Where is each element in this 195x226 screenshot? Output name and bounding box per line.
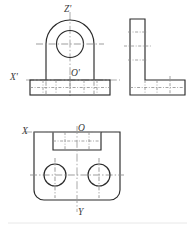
label-z-prime: Z'	[64, 4, 72, 14]
label-o-prime: O'	[71, 68, 81, 78]
front-view-group: Z' X' O'	[9, 4, 120, 96]
side-view-group	[124, 19, 185, 95]
engineering-drawing-canvas: Z' X' O'	[0, 0, 195, 226]
orthographic-drawing-svg: Z' X' O'	[0, 0, 195, 226]
label-x-prime: X'	[9, 72, 19, 82]
label-y: Y	[78, 207, 85, 217]
side-view-l-outline	[130, 19, 185, 95]
label-x: X	[21, 126, 29, 136]
top-view-group: X O Y	[21, 123, 124, 217]
label-o: O	[78, 123, 85, 133]
